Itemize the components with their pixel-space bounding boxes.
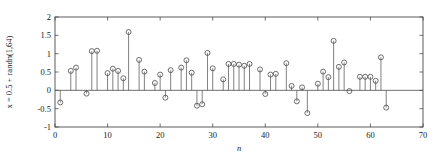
- y-tick-label: -0.5: [38, 104, 51, 114]
- y-tick-label: 1.5: [40, 30, 51, 40]
- x-tick-label: 70: [419, 130, 428, 140]
- x-tick-label: 30: [208, 130, 217, 140]
- x-tick-label: 40: [261, 130, 270, 140]
- x-tick-label: 0: [53, 130, 57, 140]
- y-axis-title: x = 0.5 + randn(1,64): [4, 35, 14, 108]
- x-tick-label: 10: [103, 130, 112, 140]
- x-tick-label: 20: [156, 130, 165, 140]
- figure-container: 010203040506070-1-0.500.511.52nx = 0.5 +…: [0, 0, 444, 156]
- y-tick-label: 0: [47, 85, 51, 95]
- y-tick-label: -1: [44, 122, 51, 132]
- y-tick-label: 1: [47, 49, 51, 59]
- x-tick-label: 50: [314, 130, 323, 140]
- y-tick-label: 0.5: [40, 67, 51, 77]
- y-tick-label: 2: [47, 12, 51, 22]
- x-axis-title: n: [237, 143, 241, 153]
- stem-plot: 010203040506070-1-0.500.511.52nx = 0.5 +…: [0, 0, 444, 156]
- x-tick-label: 60: [366, 130, 375, 140]
